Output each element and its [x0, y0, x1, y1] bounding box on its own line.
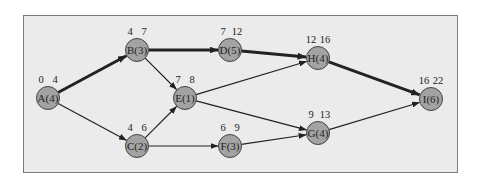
node-f: F(3)69	[219, 122, 242, 158]
node-label: E(1)	[175, 92, 195, 105]
node-label: B(3)	[127, 44, 148, 57]
early-finish-label: 9	[234, 122, 239, 133]
edge-a-c	[58, 103, 126, 140]
node-g: G(4)913	[307, 109, 331, 145]
early-finish-label: 16	[320, 34, 331, 45]
early-finish-label: 13	[320, 109, 331, 120]
node-label: G(4)	[308, 127, 329, 140]
early-finish-label: 8	[189, 74, 194, 85]
node-label: C(2)	[127, 140, 148, 153]
early-start-label: 0	[38, 74, 43, 85]
early-finish-label: 7	[141, 26, 146, 37]
node-i: I(6)1622	[419, 75, 444, 111]
early-start-label: 9	[308, 109, 313, 120]
edge-g-i	[329, 102, 419, 129]
edge-h-i-critical	[329, 62, 420, 95]
node-d: D(5)712	[219, 26, 243, 62]
node-a: A(4)04	[37, 74, 60, 110]
node-label: H(4)	[308, 52, 329, 65]
node-b: B(3)47	[126, 26, 149, 62]
early-finish-label: 12	[232, 26, 243, 37]
edge-f-g	[241, 135, 306, 145]
edge-b-e	[145, 58, 176, 89]
edge-e-h	[196, 61, 306, 94]
early-finish-label: 22	[433, 75, 444, 86]
early-start-label: 6	[220, 122, 225, 133]
node-h: H(4)1216	[306, 34, 331, 70]
early-start-label: 7	[175, 74, 180, 85]
network-diagram: A(4)04B(3)47C(2)46D(5)712E(1)78F(3)69G(4…	[0, 0, 480, 183]
edge-e-g	[196, 101, 306, 130]
node-label: F(3)	[221, 140, 240, 153]
early-start-label: 16	[419, 75, 430, 86]
early-start-label: 4	[127, 122, 133, 133]
early-finish-label: 6	[141, 122, 146, 133]
node-label: I(6)	[423, 93, 440, 106]
node-label: D(5)	[220, 44, 241, 57]
edge-c-e	[145, 106, 176, 137]
node-e: E(1)78	[174, 74, 197, 110]
early-finish-label: 4	[52, 74, 58, 85]
nodes-layer: A(4)04B(3)47C(2)46D(5)712E(1)78F(3)69G(4…	[37, 26, 444, 158]
early-start-label: 12	[306, 34, 317, 45]
node-label: A(4)	[38, 92, 59, 105]
early-start-label: 4	[127, 26, 133, 37]
edge-d-h-critical	[241, 51, 306, 57]
node-c: C(2)46	[126, 122, 149, 158]
early-start-label: 7	[220, 26, 225, 37]
edge-a-b-critical	[58, 56, 126, 93]
